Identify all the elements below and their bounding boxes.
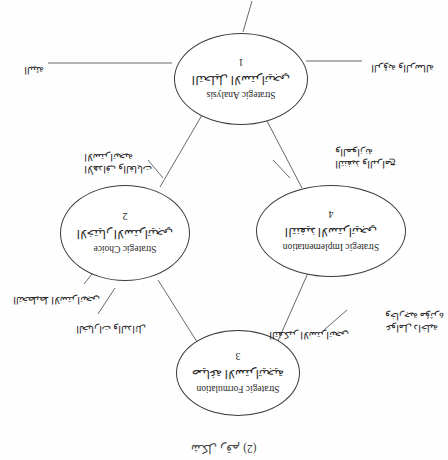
leader-alternatives	[98, 288, 115, 314]
caption-line: الأهداف والغايات	[84, 163, 152, 175]
caption-strategic-thinking: التفكير الاستراتيجي	[269, 328, 349, 340]
caption-line: الاستراتيجية	[84, 150, 152, 162]
node-label-en: Strategic Choice	[93, 245, 156, 255]
figure-canvas: شكل رقم (2) Strategic Formulation صياغة …	[0, 0, 448, 460]
figure-title: شكل رقم (2)	[0, 442, 448, 456]
leader-strategic-thinking	[324, 310, 347, 330]
node-number: 4	[329, 210, 334, 221]
node-label-en: Strategic Implementation	[283, 243, 379, 253]
node-label-ar: الاختيار الاستراتيجي	[77, 228, 174, 242]
caption-line: الخيارات والبدائل	[76, 322, 146, 334]
node-label-ar: التحليل الاستراتيجي	[192, 74, 290, 88]
caption-environment: البيئة	[24, 63, 44, 75]
node-number: 3	[236, 352, 241, 363]
node-label-en: Strategic Formulation	[196, 385, 279, 395]
caption-line: عوامل داخلية	[385, 322, 444, 334]
caption-line: التفكير الاستراتيجي	[269, 328, 349, 340]
caption-line: الرؤية والرسالة	[371, 61, 434, 73]
caption-execution-programs: التنفيذ والبرامج والموازنة	[335, 145, 396, 170]
caption-line: البيئة	[24, 63, 44, 75]
node-label-en: Strategic Analysis	[207, 91, 276, 101]
caption-line: والموازنة	[335, 145, 396, 157]
node-label-ar: صياغة الاستراتيجية	[192, 368, 284, 382]
caption-environmental-factors: عوامل داخلية وخارجية مؤثرة	[385, 309, 444, 334]
node-strategic-analysis[interactable]: Strategic Analysis التحليل الاستراتيجي 1	[174, 33, 308, 125]
caption-line: التنفيذ والبرامج	[335, 158, 396, 170]
caption-line: التخطيط الاستراتيجي	[13, 293, 100, 305]
caption-strategic-planning: التخطيط الاستراتيجي	[13, 293, 100, 305]
edge-formulation-choice	[158, 280, 199, 345]
node-strategic-formulation[interactable]: Strategic Formulation صياغة الاستراتيجية…	[176, 330, 300, 416]
edge-implementation-analysis	[267, 121, 302, 188]
leader-execution	[273, 160, 290, 178]
node-label-ar: التنفيذ الاستراتيجي	[285, 226, 378, 240]
caption-vision-mission: الرؤية والرسالة	[371, 61, 434, 73]
caption-line: وخارجية مؤثرة	[385, 309, 444, 321]
edge-choice-analysis	[160, 115, 202, 187]
caption-goals-objectives: الأهداف والغايات الاستراتيجية	[84, 150, 152, 175]
node-number: 2	[123, 212, 128, 223]
node-strategic-implementation[interactable]: Strategic Implementation التنفيذ الاسترا…	[256, 185, 406, 277]
node-strategic-choice[interactable]: Strategic Choice الاختيار الاستراتيجي 2	[60, 185, 190, 281]
caption-alternatives: الخيارات والبدائل	[76, 322, 146, 334]
leader-bottom-stub	[243, 1, 252, 32]
node-number: 1	[239, 58, 244, 69]
